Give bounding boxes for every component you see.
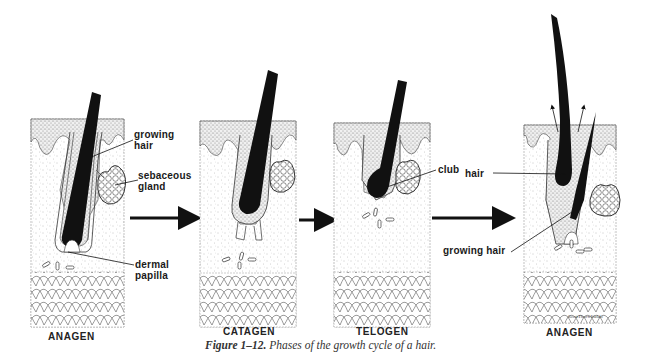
phase-label-telogen: TELOGEN [356,326,409,337]
label-text: sebaceous [138,170,192,181]
label-text: gland [138,181,192,192]
label-text: growing [134,129,174,140]
label-dermal-papilla: dermal papilla [135,259,169,281]
phase-label-anagen-2: ANAGEN [546,327,593,338]
label-text: hair [134,140,174,151]
phase-label-anagen-1: ANAGEN [48,331,95,342]
panel-anagen-2: ScottThornWaldo [493,14,620,323]
caption-text: Phases of the growth cycle of a hair. [269,339,436,351]
label-sebaceous-gland: sebaceous gland [138,170,192,192]
phase-label-catagen: CATAGEN [223,326,275,337]
caption-label: Figure 1–12. [205,339,266,351]
hair-cycle-diagram: ScottThornWaldo [0,0,648,362]
label-club-hair: hair [465,168,484,179]
label-club: club [438,164,459,175]
panel-telogen [334,80,436,327]
artist-signature: ScottThornWaldo [568,314,603,319]
label-growing-hair: growing hair [134,129,174,151]
label-text: dermal [135,259,169,270]
label-text: papilla [135,270,169,281]
panel-catagen [200,70,296,327]
figure-caption: Figure 1–12. Phases of the growth cycle … [205,339,436,351]
label-growing-hair-right: growing hair [443,245,505,256]
panel-anagen-1 [31,92,138,327]
